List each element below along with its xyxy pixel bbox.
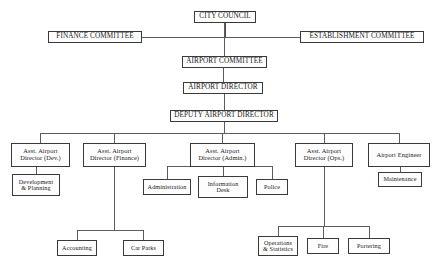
org-node-maintenance: Maintenance [378,172,422,187]
org-node-aad-admin: Asst. Airport Director (Admin.) [190,143,255,167]
org-node-airport-engineer: Airport Engineer [368,143,430,167]
org-node-airport-director: AIRPORT DIRECTOR [183,82,263,94]
org-node-city-council: CITY COUNCIL [194,11,256,23]
org-node-operations-stats: Operations & Statistics [258,236,298,256]
org-node-establishment-cmte: ESTABLISHMENT COMMITTEE [300,31,424,43]
org-node-administration: Administration [143,179,191,195]
org-chart: CITY COUNCILFINANCE COMMITTEEESTABLISHME… [0,0,441,274]
org-node-airport-committee: AIRPORT COMMITTEE [182,56,267,68]
org-node-police: Police [256,179,288,195]
org-node-aad-finance: Asst. Airport Director (Finance) [83,143,146,167]
org-node-finance-committee: FINANCE COMMITTEE [48,31,142,43]
org-node-car-parks: Car Parks [123,240,164,256]
org-node-aad-ops: Asst. Airport Director (Ops.) [295,143,353,167]
org-node-accounting: Accounting [57,240,97,256]
org-node-information-desk: Information Desk [198,176,248,198]
org-node-portering: Portering [348,238,390,254]
org-node-development: Development & Planning [12,174,60,196]
org-node-deputy-director: DEPUTY AIRPORT DIRECTOR [170,110,278,122]
org-node-fire: Fire [307,238,339,254]
org-node-aad-dev: Asst. Airport Director (Dev.) [11,143,70,167]
